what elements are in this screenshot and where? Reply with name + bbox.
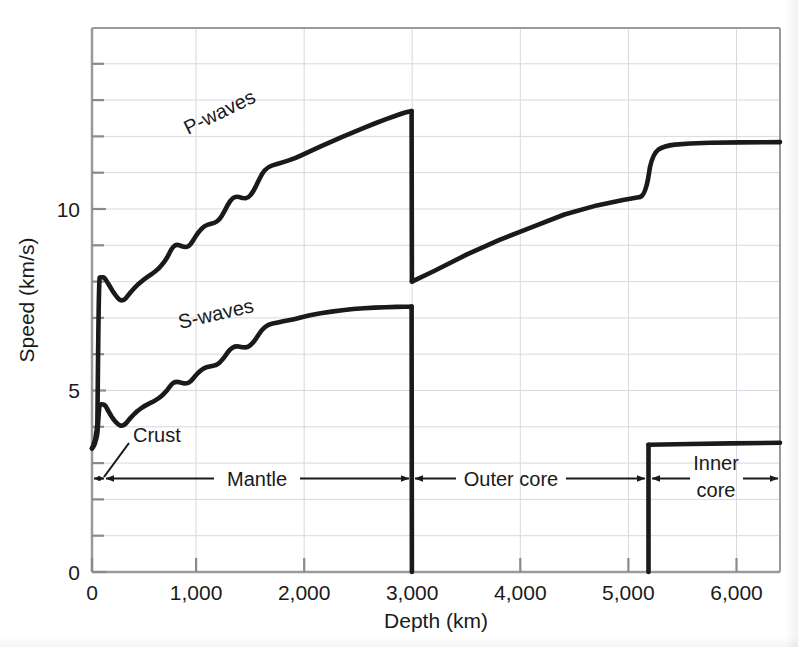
x-axis-ticks [92,558,737,572]
inner-core-label-line1: Inner [693,452,739,474]
p-wave-curve [92,111,780,448]
s-wave-inner-core-path [649,443,781,445]
s-wave-curve [92,307,780,572]
p-wave-mantle-path [92,111,412,448]
x-axis-title: Depth (km) [384,609,488,632]
mantle-label: Mantle [227,468,287,490]
x-tick-label-4000: 4,000 [494,581,547,604]
y-axis-title: Speed (km/s) [15,238,38,363]
y-tick-label-10: 10 [57,198,80,221]
p-wave-inner-core-path [640,142,780,197]
x-tick-label-3000: 3,000 [386,581,439,604]
crust-label: Crust [133,424,181,446]
crust-leader-line [104,443,129,477]
y-tick-label-5: 5 [68,379,80,402]
p-wave-outer-core-path [412,197,640,282]
inner-core-label-line2: core [697,479,736,501]
seismic-velocity-chart: 0 5 10 0 1,000 2,000 3,000 4,000 5,000 6… [0,0,798,647]
axis-frame [92,28,780,572]
figure-container: 0 5 10 0 1,000 2,000 3,000 4,000 5,000 6… [0,0,798,647]
s-waves-label: S-waves [176,294,256,333]
outer-core-label: Outer core [464,468,558,490]
x-tick-label-6000: 6,000 [710,581,763,604]
x-tick-label-5000: 5,000 [602,581,655,604]
x-tick-label-1000: 1,000 [170,581,223,604]
x-tick-label-2000: 2,000 [278,581,331,604]
grid-lines [92,28,780,572]
y-tick-label-0: 0 [68,561,80,584]
x-tick-label-0: 0 [86,581,98,604]
p-waves-label: P-waves [180,85,259,138]
